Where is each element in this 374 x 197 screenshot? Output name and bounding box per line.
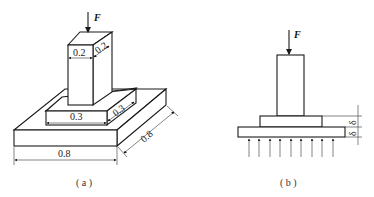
caption-b: ( b ) — [280, 177, 297, 189]
force-label-b: F — [293, 29, 301, 40]
diagram-canvas: F 0.2 0.2 0.3 0.3 0.8 0.8 ( a ) F — [0, 0, 374, 197]
base-depth-label: 0.8 — [138, 128, 155, 144]
base-plate-b — [238, 127, 345, 137]
thickness-lower-label: δ — [347, 131, 358, 136]
force-label-a: F — [93, 12, 101, 23]
column-width-label: 0.2 — [73, 47, 86, 58]
reaction-arrows — [249, 139, 333, 157]
middle-plate-b — [260, 116, 322, 127]
middle-width-label: 0.3 — [70, 111, 83, 122]
figure-a: F 0.2 0.2 0.3 0.3 0.8 0.8 ( a ) — [14, 12, 178, 189]
ext-line-back — [167, 106, 178, 116]
column-b — [277, 55, 304, 116]
base-width-label: 0.8 — [58, 148, 71, 159]
figure-b: F δ δ ( b ) — [238, 29, 362, 189]
caption-a: ( a ) — [76, 177, 92, 189]
thickness-upper-label: δ — [347, 120, 358, 125]
